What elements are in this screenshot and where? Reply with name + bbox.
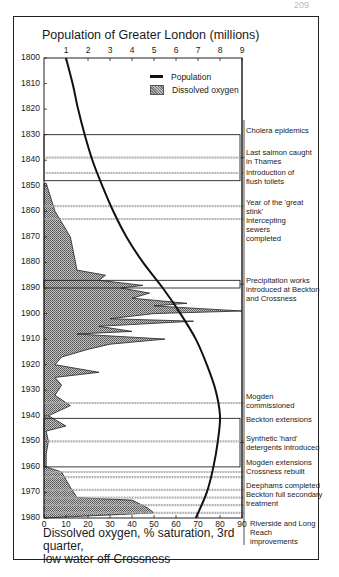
population-tick-label: 6 — [166, 45, 186, 55]
y-tick-label: 1830 — [8, 129, 40, 139]
y-tick-label: 1920 — [8, 359, 40, 369]
population-line-swatch — [150, 75, 163, 78]
y-tick-label: 1840 — [8, 154, 40, 164]
y-tick-label: 1970 — [8, 486, 40, 496]
y-tick-label: 1820 — [8, 103, 40, 113]
annotation-last-salmon: Last salmon caught in Thames — [246, 148, 316, 166]
y-tick-label: 1860 — [8, 205, 40, 215]
legend-item-oxygen: Dissolved oxygen — [150, 83, 239, 96]
population-tick-label: 9 — [232, 45, 252, 55]
population-tick-label: 1 — [56, 45, 76, 55]
legend-item-population: Population — [150, 70, 239, 83]
population-tick-label: 2 — [78, 45, 98, 55]
y-tick-label: 1910 — [8, 333, 40, 343]
population-tick-label: 4 — [122, 45, 142, 55]
annotation-riverside: Riverside and Long Reach improvements — [250, 519, 316, 546]
annotation-detergents: Synthetic 'hard' detergents introduced — [246, 434, 334, 452]
annotation-beckton-ext: Beckton extensions — [246, 415, 336, 424]
y-tick-label: 1940 — [8, 410, 40, 420]
annotation-great-stink: Year of the 'great stink' Intercepting s… — [246, 198, 304, 243]
y-tick-label: 1960 — [8, 461, 40, 471]
oxygen-hatch-swatch — [150, 85, 164, 95]
y-tick-label: 1880 — [8, 256, 40, 266]
y-tick-label: 1900 — [8, 308, 40, 318]
legend: Population Dissolved oxygen — [150, 70, 239, 96]
y-tick-label: 1930 — [8, 384, 40, 394]
y-tick-label: 1950 — [8, 435, 40, 445]
annotation-cholera: Cholera epidemics — [246, 126, 336, 135]
population-tick-label: 8 — [210, 45, 230, 55]
annotation-mogden-ext: Mogden extensions Crossness rebuilt — [246, 458, 324, 476]
x-axis-title: Dissolved oxygen, % saturation, 3rd quar… — [43, 527, 243, 566]
y-tick-label: 1810 — [8, 78, 40, 88]
population-tick-label: 7 — [188, 45, 208, 55]
y-tick-label: 1870 — [8, 231, 40, 241]
y-tick-label: 1850 — [8, 180, 40, 190]
y-tick-label: 1800 — [8, 52, 40, 62]
population-tick-label: 5 — [144, 45, 164, 55]
annotation-deephams: Deephams completed Beckton full secondar… — [246, 481, 332, 508]
annotation-precipitation: Precipitation works introduced at Beckto… — [246, 276, 324, 303]
population-tick-label: 3 — [100, 45, 120, 55]
y-tick-label: 1890 — [8, 282, 40, 292]
annotation-mogden: Mogden commissioned — [246, 392, 306, 410]
annotation-flush-toilets: Introduction of flush toilets — [246, 168, 308, 186]
